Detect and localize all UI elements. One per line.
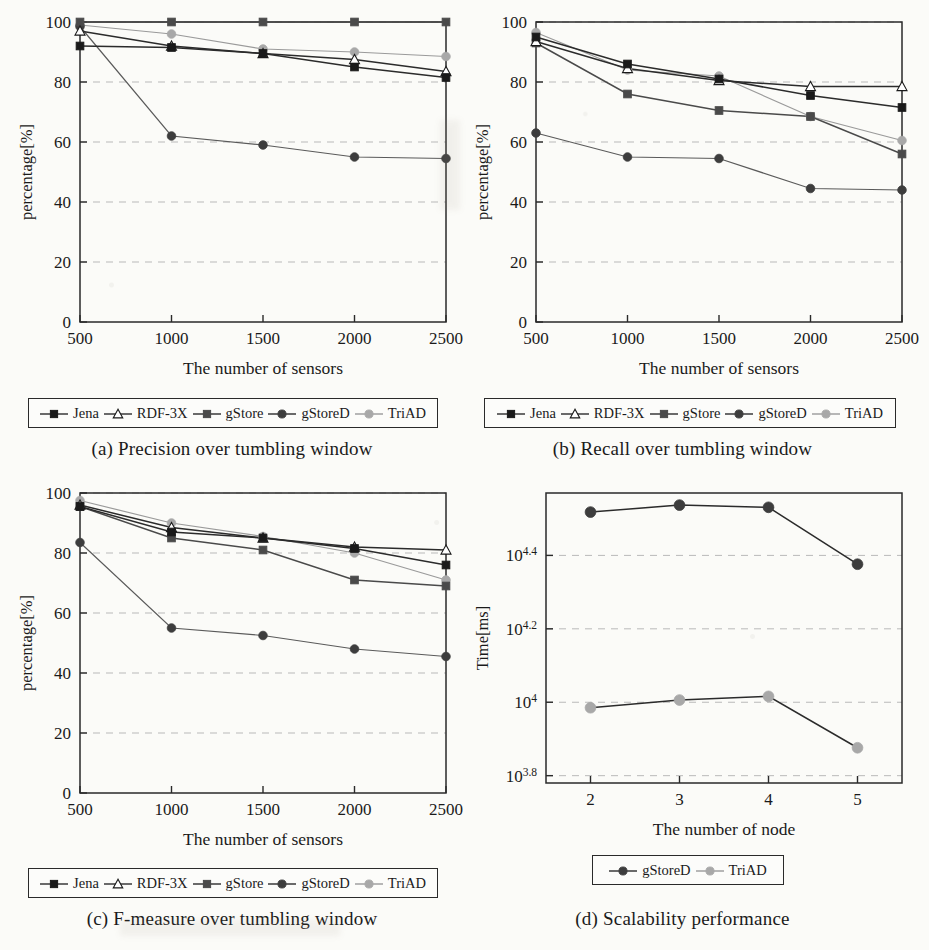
legend-entry-Jena: Jena [39, 405, 100, 422]
data-point-marker [624, 60, 632, 68]
plot-d: 103.8104104.2104.42345The number of node… [464, 475, 929, 870]
data-point-marker [442, 154, 451, 163]
x-tick-label: 1500 [246, 329, 280, 348]
data-point-marker [660, 410, 667, 417]
series-markers-gStore [76, 503, 450, 590]
legend-label: RDF-3X [136, 405, 189, 422]
x-tick-label: 2 [586, 790, 595, 809]
legend-entry-TriAD: TriAD [354, 405, 427, 422]
legend-label: TriAD [728, 862, 768, 879]
y-tick-label: 104 [514, 692, 537, 712]
legend-marker-Jena-icon [496, 407, 526, 419]
data-point-marker [715, 75, 723, 83]
legend-entry-gStoreD: gStoreD [608, 862, 691, 879]
y-tick-label: 100 [502, 13, 528, 32]
x-tick-label: 4 [764, 790, 773, 809]
data-point-marker [898, 186, 907, 195]
x-tick-label: 1500 [702, 329, 736, 348]
y-tick-label: 80 [54, 73, 71, 92]
data-point-marker [706, 867, 714, 875]
legend-entry-gStore: gStore [649, 405, 722, 422]
x-axis-label: The number of sensors [183, 829, 343, 849]
subfigure-a: 0204060801005001000150020002500The numbe… [0, 0, 464, 475]
chart-area: 0204060801005001000150020002500The numbe… [473, 13, 919, 378]
y-tick-label: 80 [54, 544, 71, 563]
data-point-marker [442, 652, 451, 661]
legend-c: JenaRDF-3XgStoregStoreDTriAD [28, 868, 438, 898]
data-point-marker [278, 880, 286, 888]
legend-entry-RDF-3X: RDF-3X [560, 405, 646, 422]
data-point-marker [50, 880, 57, 887]
data-point-marker [624, 90, 632, 98]
data-point-marker [623, 153, 632, 162]
data-point-marker [365, 880, 373, 888]
series-markers-gStoreD [532, 129, 907, 195]
legend-marker-TriAD-icon [354, 407, 384, 419]
y-tick-label: 20 [54, 253, 71, 272]
legend-entry-Jena: Jena [39, 875, 100, 892]
data-point-marker [898, 136, 907, 145]
data-point-marker [585, 507, 596, 518]
legend-entry-RDF-3X: RDF-3X [103, 405, 189, 422]
series-markers-Jena [76, 503, 450, 569]
y-axis-label: percentage[%] [17, 595, 36, 691]
axes-frame [536, 22, 902, 322]
x-tick-label: 500 [67, 800, 93, 819]
data-point-marker [807, 92, 815, 100]
axes-frame [546, 493, 902, 783]
x-tick-label: 2000 [794, 329, 828, 348]
data-point-marker [442, 561, 450, 569]
x-axis-label: The number of node [653, 819, 796, 839]
y-tick-label: 60 [54, 133, 71, 152]
data-point-marker [852, 559, 863, 570]
data-point-marker [76, 503, 84, 511]
y-tick-label: 104.2 [506, 619, 538, 639]
legend-entry-TriAD: TriAD [354, 875, 427, 892]
data-point-marker [259, 534, 267, 542]
data-point-marker [442, 582, 450, 590]
legend-b: JenaRDF-3XgStoregStoreDTriAD [484, 398, 896, 428]
legend-marker-gStoreD-icon [608, 864, 638, 876]
legend-marker-gStoreD-icon [724, 407, 754, 419]
x-tick-label: 1000 [155, 329, 189, 348]
y-tick-exponent: 4.2 [523, 619, 538, 631]
x-tick-label: 2000 [338, 800, 372, 819]
y-tick-label: 103.8 [506, 766, 538, 786]
data-point-marker [532, 33, 540, 41]
data-point-marker [259, 546, 267, 554]
subfigure-d: 103.8104104.2104.42345The number of node… [464, 475, 929, 950]
legend-marker-gStore-icon [192, 407, 222, 419]
x-tick-label: 500 [523, 329, 549, 348]
data-point-marker [442, 52, 451, 61]
legend-label: TriAD [387, 405, 427, 422]
caption-b: (b) Recall over tumbling window [450, 438, 915, 460]
data-point-marker [822, 410, 830, 418]
legend-label: Jena [72, 405, 100, 422]
legend-label: gStore [225, 405, 265, 422]
data-point-marker [715, 154, 724, 163]
legend-marker-gStoreD-icon [267, 877, 297, 889]
data-point-marker [278, 410, 286, 418]
legend-label: gStore [682, 405, 722, 422]
data-point-marker [852, 742, 863, 753]
series-markers-gStoreD [585, 500, 863, 570]
series-line-gStore [536, 43, 902, 154]
data-point-marker [259, 18, 267, 26]
legend-label: Jena [529, 405, 557, 422]
data-point-marker [898, 104, 906, 112]
x-tick-label: 2500 [885, 329, 919, 348]
series-markers-gStoreD [76, 538, 451, 661]
data-point-marker [259, 631, 268, 640]
data-point-marker [203, 410, 210, 417]
y-tick-label: 20 [54, 724, 71, 743]
legend-marker-RDF-3X-icon [103, 877, 133, 889]
chart-area: 103.8104104.2104.42345The number of node… [473, 493, 902, 839]
data-point-marker [167, 30, 176, 39]
chart-area: 0204060801005001000150020002500The numbe… [17, 484, 463, 849]
data-point-marker [259, 141, 268, 150]
legend-marker-RDF-3X-icon [560, 407, 590, 419]
data-point-marker [585, 702, 596, 713]
caption-a: (a) Precision over tumbling window [0, 438, 464, 460]
y-tick-exponent: 3.8 [523, 766, 538, 778]
y-tick-label: 40 [510, 193, 527, 212]
